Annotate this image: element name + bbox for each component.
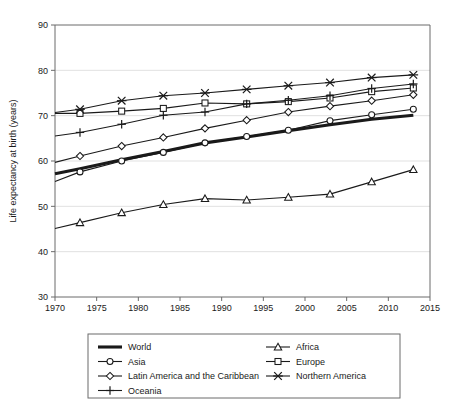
data-point-1983 <box>160 134 167 141</box>
data-point-1973 <box>76 152 83 159</box>
data-point-2003 <box>326 103 333 110</box>
data-point-1988 <box>202 140 208 146</box>
life-expectancy-line-chart: 30405060708090 1970197519801985199019952… <box>0 0 457 410</box>
y-axis-tick-labels: 30405060708090 <box>38 20 48 302</box>
y-tick-label-40: 40 <box>38 247 48 257</box>
series-oceania <box>55 80 418 137</box>
series-line <box>55 84 413 136</box>
x-tick-label-1990: 1990 <box>212 303 232 313</box>
data-point-2013 <box>410 166 417 173</box>
legend-item-oceania: Oceania <box>98 386 162 396</box>
y-axis-title: Life expectancy at birth (years) <box>8 99 18 222</box>
legend-label-latin-america-and-the-caribbean: Latin America and the Caribbean <box>128 371 259 381</box>
data-point-2008 <box>368 97 375 104</box>
x-tick-label-1970: 1970 <box>45 303 65 313</box>
data-point-1993 <box>244 134 250 140</box>
data-point-1978 <box>119 108 125 114</box>
series-northern-america <box>55 71 418 113</box>
legend-item-world: World <box>98 342 151 352</box>
y-axis-label: Life expectancy at birth (years) <box>8 99 18 222</box>
legend-label-africa: Africa <box>296 342 319 352</box>
x-tick-label-2000: 2000 <box>295 303 315 313</box>
data-point-1978 <box>119 158 125 164</box>
y-tick-label-70: 70 <box>38 111 48 121</box>
legend-item-asia: Asia <box>98 357 146 367</box>
series-line <box>55 170 413 229</box>
data-point-2013 <box>410 91 417 98</box>
x-axis-tick-labels: 1970197519801985199019952000200520102015 <box>45 303 440 313</box>
data-point-2008 <box>369 112 375 118</box>
chart-container: 30405060708090 1970197519801985199019952… <box>0 0 457 410</box>
x-tick-label-1975: 1975 <box>87 303 107 313</box>
legend-item-northern-america: Northern America <box>266 371 366 381</box>
legend-item-latin-america-and-the-caribbean: Latin America and the Caribbean <box>98 371 259 381</box>
legend-item-europe: Europe <box>266 357 325 367</box>
y-tick-label-50: 50 <box>38 202 48 212</box>
x-tick-label-2005: 2005 <box>337 303 357 313</box>
series-line <box>55 88 413 113</box>
data-point-2013 <box>410 106 416 112</box>
data-point-1978 <box>118 142 125 149</box>
data-point-1973 <box>77 169 83 175</box>
data-point-2003 <box>327 118 333 124</box>
legend-item-africa: Africa <box>266 342 319 352</box>
legend-label-northern-america: Northern America <box>296 371 366 381</box>
y-tick-label-90: 90 <box>38 20 48 30</box>
legend-marker-diamond <box>106 372 113 379</box>
data-point-1998 <box>285 127 291 133</box>
data-point-1993 <box>243 117 250 124</box>
x-tick-label-2010: 2010 <box>378 303 398 313</box>
y-tick-label-80: 80 <box>38 66 48 76</box>
series-africa <box>55 166 417 229</box>
data-point-1988 <box>202 100 208 106</box>
legend-label-world: World <box>128 342 151 352</box>
series-asia <box>55 106 416 181</box>
x-tick-label-2015: 2015 <box>420 303 440 313</box>
y-tick-label-30: 30 <box>38 292 48 302</box>
legend-label-europe: Europe <box>296 357 325 367</box>
series-line <box>55 95 413 163</box>
x-tick-label-1995: 1995 <box>253 303 273 313</box>
data-point-1988 <box>201 125 208 132</box>
data-point-1998 <box>285 108 292 115</box>
legend-marker-square <box>275 359 281 365</box>
y-tick-label-60: 60 <box>38 156 48 166</box>
x-tick-label-1985: 1985 <box>170 303 190 313</box>
chart-legend: WorldAfricaAsiaEuropeLatin America and t… <box>88 334 400 398</box>
data-point-1983 <box>160 149 166 155</box>
legend-label-oceania: Oceania <box>128 386 162 396</box>
x-tick-label-1980: 1980 <box>128 303 148 313</box>
legend-marker-circle <box>107 359 113 365</box>
data-series <box>55 71 418 228</box>
data-point-1983 <box>160 105 166 111</box>
legend-label-asia: Asia <box>128 357 146 367</box>
